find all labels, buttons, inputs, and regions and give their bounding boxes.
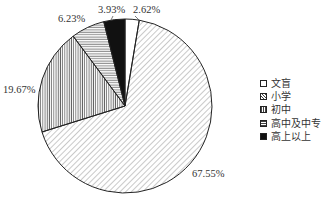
legend-item-senior: 高中及中专 — [260, 117, 321, 130]
legend-label: 初中 — [271, 103, 291, 116]
legend-label: 高中及中专 — [271, 117, 321, 130]
label-junior-pct: 19.67% — [3, 84, 35, 95]
swatch-vertical-icon — [260, 106, 267, 113]
label-senior-pct: 6.23% — [58, 13, 85, 24]
swatch-solid-icon — [260, 133, 267, 140]
swatch-horizontal-icon — [260, 120, 267, 127]
legend-item-above: 高上以上 — [260, 130, 321, 143]
legend-item-illiterate: 文盲 — [260, 77, 321, 90]
legend-label: 小学 — [271, 90, 291, 103]
label-illiterate-pct: 2.62% — [133, 4, 160, 15]
legend-label: 高上以上 — [271, 130, 311, 143]
legend: 文盲 小学 初中 高中及中专 高上以上 — [260, 77, 321, 143]
swatch-blank-icon — [260, 80, 267, 87]
legend-label: 文盲 — [271, 77, 291, 90]
swatch-diagonal-icon — [260, 93, 267, 100]
label-above-pct: 3.93% — [98, 4, 125, 15]
legend-item-primary: 小学 — [260, 90, 321, 103]
legend-item-junior: 初中 — [260, 103, 321, 116]
label-primary-pct: 67.55% — [192, 168, 224, 179]
